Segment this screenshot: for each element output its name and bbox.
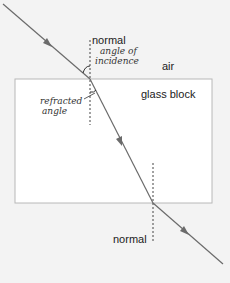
angle-of-incidence-annotation-1: angle of [100, 47, 137, 56]
incidence-angle-arc [83, 66, 90, 73]
normal-label-top: normal [92, 35, 126, 46]
air-label: air [162, 61, 174, 72]
normal-label-bottom: normal [113, 234, 147, 245]
refracted-angle-annotation-2: angle [42, 107, 67, 116]
refracted-angle-annotation-1: refracted [40, 97, 82, 106]
angle-of-incidence-annotation-2: incidence [95, 57, 139, 66]
glass-block-label: glass block [141, 89, 195, 100]
